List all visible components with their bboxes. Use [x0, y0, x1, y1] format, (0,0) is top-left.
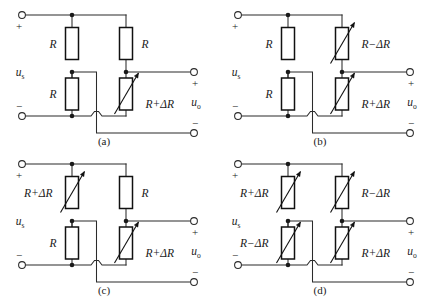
output-terminal-negative — [191, 279, 198, 286]
wire-bottom-rail — [241, 261, 342, 266]
variable-arrowhead-icon — [296, 172, 300, 177]
output-terminal-negative — [191, 130, 198, 137]
variable-arrowhead-icon — [350, 222, 354, 227]
circuit-figure: +−+−usuoRRRR+ΔR(a)+−+−usuoRRR−ΔRR+ΔR(b)+… — [0, 0, 432, 298]
resistor-label-bottom-right: R+ΔR — [145, 247, 175, 259]
source-terminal-positive — [235, 161, 242, 168]
resistor-label-top-right: R — [141, 38, 149, 50]
output-terminal-positive — [407, 218, 414, 225]
wire-bottom-rail — [25, 261, 126, 266]
output-plus-sign: + — [192, 226, 198, 238]
resistor-label-bottom-right: R+ΔR — [361, 247, 391, 259]
source-minus-sign: − — [232, 100, 238, 112]
source-voltage-label: us — [232, 215, 241, 230]
bridge-panel-d: +−+−usuoR+ΔRR−ΔRR−ΔRR+ΔR(d) — [216, 149, 432, 298]
node-bridge-top — [286, 162, 291, 167]
source-terminal-positive — [19, 12, 26, 19]
variable-arrowhead-icon — [80, 172, 84, 177]
resistor-label-bottom-left: R — [264, 88, 272, 100]
source-plus-sign: + — [16, 20, 22, 32]
output-voltage-label: uo — [191, 96, 201, 111]
node-bridge-left-mid — [70, 70, 75, 75]
node-bridge-right-mid — [340, 70, 345, 75]
node-bridge-left-mid — [70, 219, 75, 224]
source-voltage-label: us — [16, 66, 25, 81]
output-plus-sign: + — [408, 77, 414, 89]
variable-arrowhead-icon — [350, 23, 354, 28]
output-terminal-positive — [191, 69, 198, 76]
variable-arrowhead-icon — [350, 73, 354, 78]
resistor-body — [66, 28, 79, 60]
resistor-label-bottom-right: R+ΔR — [145, 98, 175, 110]
node-bridge-left-mid — [286, 219, 291, 224]
variable-arrowhead-icon — [350, 172, 354, 177]
output-terminal-negative — [407, 130, 414, 137]
wire-bottom-rail — [25, 112, 126, 117]
panel-caption-d: (d) — [314, 284, 327, 297]
node-bridge-top — [70, 162, 75, 167]
resistor-label-top-left: R — [264, 38, 272, 50]
panel-canvas-a: +−+−usuoRRRR+ΔR(a) — [0, 0, 216, 149]
source-plus-sign: + — [16, 169, 22, 181]
output-plus-sign: + — [192, 77, 198, 89]
source-minus-sign: − — [16, 100, 22, 112]
source-terminal-negative — [235, 262, 242, 269]
variable-arrowhead-icon — [134, 222, 138, 227]
output-minus-sign: − — [408, 266, 414, 278]
output-terminal-negative — [407, 279, 414, 286]
source-terminal-positive — [19, 161, 26, 168]
output-voltage-label: uo — [407, 245, 417, 260]
resistor-body — [66, 78, 79, 110]
resistor-label-top-left: R+ΔR — [239, 187, 269, 199]
resistor-label-top-right: R — [141, 187, 149, 199]
output-voltage-label: uo — [407, 96, 417, 111]
panel-canvas-d: +−+−usuoR+ΔRR−ΔRR−ΔRR+ΔR(d) — [216, 149, 432, 298]
panel-caption-c: (c) — [98, 284, 111, 297]
source-plus-sign: + — [232, 169, 238, 181]
node-bridge-right-mid — [340, 219, 345, 224]
panel-canvas-b: +−+−usuoRRR−ΔRR+ΔR(b) — [216, 0, 432, 149]
source-minus-sign: − — [16, 249, 22, 261]
resistor-label-bottom-left: R−ΔR — [239, 237, 269, 249]
output-minus-sign: − — [192, 266, 198, 278]
panel-canvas-c: +−+−usuoR+ΔRRRR+ΔR(c) — [0, 149, 216, 298]
output-terminal-positive — [191, 218, 198, 225]
output-terminal-positive — [407, 69, 414, 76]
bridge-panel-b: +−+−usuoRRR−ΔRR+ΔR(b) — [216, 0, 432, 149]
resistor-body — [282, 78, 295, 110]
resistor-label-bottom-right: R+ΔR — [361, 98, 391, 110]
source-terminal-negative — [19, 113, 26, 120]
source-terminal-positive — [235, 12, 242, 19]
source-terminal-negative — [19, 262, 26, 269]
resistor-body — [282, 28, 295, 60]
resistor-label-top-right: R−ΔR — [361, 187, 391, 199]
node-bridge-bottom — [70, 114, 75, 119]
bridge-panel-a: +−+−usuoRRRR+ΔR(a) — [0, 0, 216, 149]
node-bridge-right-mid — [124, 70, 129, 75]
node-bridge-left-mid — [286, 70, 291, 75]
node-bridge-top — [286, 13, 291, 18]
source-voltage-label: us — [232, 66, 241, 81]
resistor-body — [120, 28, 133, 60]
panel-caption-a: (a) — [98, 135, 111, 148]
panel-caption-b: (b) — [314, 135, 327, 148]
wire-bottom-rail — [241, 112, 342, 117]
resistor-label-top-left: R — [48, 38, 56, 50]
resistor-body — [66, 227, 79, 259]
variable-arrowhead-icon — [134, 73, 138, 78]
node-bridge-bottom — [286, 263, 291, 268]
resistor-label-bottom-left: R — [48, 237, 56, 249]
node-bridge-right-mid — [124, 219, 129, 224]
resistor-label-top-left: R+ΔR — [23, 187, 53, 199]
source-minus-sign: − — [232, 249, 238, 261]
bridge-panel-c: +−+−usuoR+ΔRRRR+ΔR(c) — [0, 149, 216, 298]
node-bridge-bottom — [286, 114, 291, 119]
node-bridge-top — [70, 13, 75, 18]
node-bridge-bottom — [70, 263, 75, 268]
resistor-body — [120, 177, 133, 209]
resistor-label-bottom-left: R — [48, 88, 56, 100]
output-minus-sign: − — [408, 117, 414, 129]
resistor-label-top-right: R−ΔR — [361, 38, 391, 50]
source-plus-sign: + — [232, 20, 238, 32]
output-voltage-label: uo — [191, 245, 201, 260]
